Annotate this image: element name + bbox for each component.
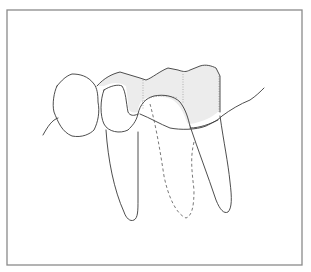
left-premolar-outline bbox=[53, 74, 99, 137]
left-gum-line bbox=[43, 118, 58, 135]
abutment-root-right bbox=[190, 116, 231, 213]
figure-frame bbox=[7, 10, 302, 265]
abutment-root-left bbox=[106, 130, 138, 221]
bridge-crown-shading bbox=[98, 65, 220, 124]
dental-bridge-illustration bbox=[0, 0, 311, 272]
